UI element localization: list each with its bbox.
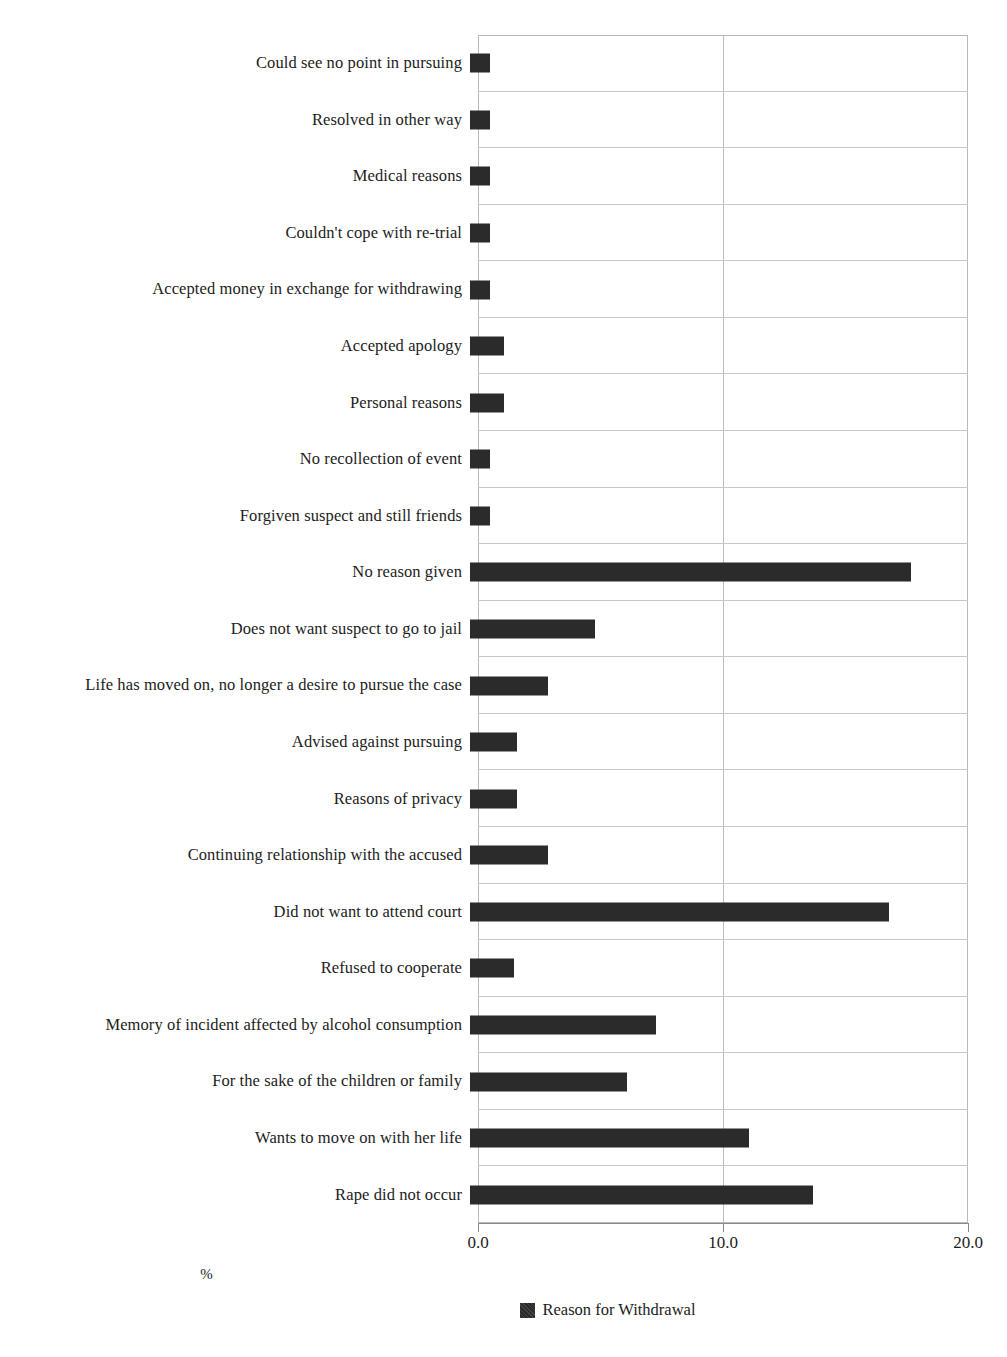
bar[interactable] bbox=[470, 733, 517, 752]
bar[interactable] bbox=[470, 54, 490, 73]
bar-row: Forgiven suspect and still friends bbox=[0, 488, 1007, 545]
bar-row: Continuing relationship with the accused bbox=[0, 827, 1007, 884]
bar-row: Could see no point in pursuing bbox=[0, 35, 1007, 92]
bar-row: Memory of incident affected by alcohol c… bbox=[0, 997, 1007, 1054]
category-label: Couldn't cope with re-trial bbox=[0, 224, 470, 242]
bar[interactable] bbox=[470, 959, 514, 978]
bar[interactable] bbox=[470, 393, 504, 412]
bar-rows: Could see no point in pursuingResolved i… bbox=[0, 35, 1007, 1223]
bar-track bbox=[470, 35, 962, 92]
bar[interactable] bbox=[470, 619, 595, 638]
category-label: Resolved in other way bbox=[0, 111, 470, 129]
bar-track bbox=[470, 1110, 962, 1167]
bar-track bbox=[470, 714, 962, 771]
category-label: No recollection of event bbox=[0, 450, 470, 468]
category-label: Accepted apology bbox=[0, 337, 470, 355]
category-label: Personal reasons bbox=[0, 394, 470, 412]
bar[interactable] bbox=[470, 846, 548, 865]
bar[interactable] bbox=[470, 280, 490, 299]
bar-row: Refused to cooperate bbox=[0, 940, 1007, 997]
bar-row: No recollection of event bbox=[0, 431, 1007, 488]
bar-track bbox=[470, 148, 962, 205]
bar[interactable] bbox=[470, 1129, 749, 1148]
category-label: Could see no point in pursuing bbox=[0, 54, 470, 72]
bar[interactable] bbox=[470, 1072, 627, 1091]
x-axis-tick-label: 20.0 bbox=[953, 1233, 983, 1253]
category-label: Life has moved on, no longer a desire to… bbox=[0, 676, 470, 694]
bar-track bbox=[470, 601, 962, 658]
category-label: Memory of incident affected by alcohol c… bbox=[0, 1016, 470, 1034]
bar-row: Wants to move on with her life bbox=[0, 1110, 1007, 1167]
x-axis-tick bbox=[968, 1223, 969, 1232]
bar-row: Advised against pursuing bbox=[0, 714, 1007, 771]
bar-track bbox=[470, 374, 962, 431]
bar-track bbox=[470, 92, 962, 149]
bar-track bbox=[470, 488, 962, 545]
category-label: Accepted money in exchange for withdrawi… bbox=[0, 280, 470, 298]
bar-track bbox=[470, 884, 962, 941]
category-label: For the sake of the children or family bbox=[0, 1072, 470, 1090]
bar-row: Rape did not occur bbox=[0, 1166, 1007, 1223]
category-label: No reason given bbox=[0, 563, 470, 581]
bar[interactable] bbox=[470, 110, 490, 129]
category-label: Forgiven suspect and still friends bbox=[0, 507, 470, 525]
x-axis-tick-label: 10.0 bbox=[708, 1233, 738, 1253]
bar-row: Did not want to attend court bbox=[0, 884, 1007, 941]
bar[interactable] bbox=[470, 1015, 656, 1034]
bar[interactable] bbox=[470, 902, 889, 921]
bar[interactable] bbox=[470, 1185, 813, 1204]
category-label: Does not want suspect to go to jail bbox=[0, 620, 470, 638]
bar-row: Medical reasons bbox=[0, 148, 1007, 205]
bar[interactable] bbox=[470, 223, 490, 242]
bar-track bbox=[470, 261, 962, 318]
bar[interactable] bbox=[470, 676, 548, 695]
x-axis-tick-label: 0.0 bbox=[467, 1233, 488, 1253]
bar-track bbox=[470, 827, 962, 884]
bar-row: Accepted money in exchange for withdrawi… bbox=[0, 261, 1007, 318]
bar-row: Reasons of privacy bbox=[0, 770, 1007, 827]
bar-row: For the sake of the children or family bbox=[0, 1053, 1007, 1110]
category-label: Did not want to attend court bbox=[0, 903, 470, 921]
category-label: Reasons of privacy bbox=[0, 790, 470, 808]
bar-row: Accepted apology bbox=[0, 318, 1007, 375]
x-axis-title: % bbox=[0, 1266, 1007, 1283]
bar-row: Couldn't cope with re-trial bbox=[0, 205, 1007, 262]
bar[interactable] bbox=[470, 563, 911, 582]
bar-row: Does not want suspect to go to jail bbox=[0, 601, 1007, 658]
bar[interactable] bbox=[470, 167, 490, 186]
x-axis-tick bbox=[723, 1223, 724, 1232]
category-label: Rape did not occur bbox=[0, 1186, 470, 1204]
bar-track bbox=[470, 940, 962, 997]
bar[interactable] bbox=[470, 337, 504, 356]
bar-track bbox=[470, 657, 962, 714]
category-label: Wants to move on with her life bbox=[0, 1129, 470, 1147]
bar[interactable] bbox=[470, 506, 490, 525]
bar[interactable] bbox=[470, 789, 517, 808]
bar-chart: Could see no point in pursuingResolved i… bbox=[0, 0, 1007, 1357]
category-label: Medical reasons bbox=[0, 167, 470, 185]
bar-track bbox=[470, 205, 962, 262]
bar-track bbox=[470, 1053, 962, 1110]
bar-track bbox=[470, 318, 962, 375]
legend-swatch-reason-for-withdrawal bbox=[520, 1303, 535, 1318]
bar-track bbox=[470, 544, 962, 601]
bar-row: Personal reasons bbox=[0, 374, 1007, 431]
bar-track bbox=[470, 431, 962, 488]
bar-track bbox=[470, 997, 962, 1054]
x-axis-tick bbox=[478, 1223, 479, 1232]
category-label: Refused to cooperate bbox=[0, 959, 470, 977]
bar-track bbox=[470, 770, 962, 827]
bar[interactable] bbox=[470, 450, 490, 469]
x-axis-title-text: % bbox=[200, 1266, 213, 1282]
category-label: Advised against pursuing bbox=[0, 733, 470, 751]
category-label: Continuing relationship with the accused bbox=[0, 846, 470, 864]
bar-track bbox=[470, 1166, 962, 1223]
bar-row: Resolved in other way bbox=[0, 92, 1007, 149]
bar-row: No reason given bbox=[0, 544, 1007, 601]
legend: Reason for Withdrawal bbox=[0, 1300, 1007, 1320]
bar-row: Life has moved on, no longer a desire to… bbox=[0, 657, 1007, 714]
legend-label-reason-for-withdrawal: Reason for Withdrawal bbox=[543, 1300, 696, 1320]
